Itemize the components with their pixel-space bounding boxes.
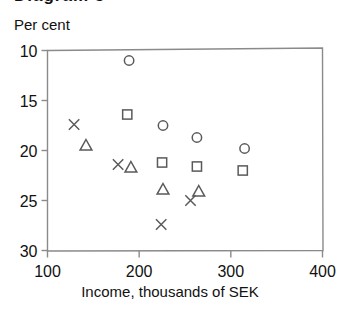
x-tick-label-300: 300 (217, 263, 244, 280)
data-point-triangle (80, 140, 92, 151)
data-point-cross (185, 195, 195, 205)
tick-label-group: 3025201510100200300400 (20, 43, 336, 280)
y-tick-label-15: 25 (20, 193, 38, 210)
tick-group (42, 51, 323, 258)
y-tick-label-25: 15 (20, 93, 38, 110)
x-axis-caption: Income, thousands of SEK (0, 283, 340, 300)
data-point-circle (240, 144, 249, 153)
data-point-circle (158, 121, 167, 130)
data-point-cross (69, 119, 79, 129)
y-tick-label-10: 30 (20, 243, 38, 260)
data-marker-group (69, 56, 249, 230)
plot-area: 3025201510100200300400 (0, 0, 340, 312)
x-tick-label-100: 100 (34, 263, 61, 280)
scatter-chart-figure: Diagram 5 Per cent 302520151010020030040… (0, 0, 340, 312)
data-point-square (123, 110, 132, 119)
data-point-triangle (193, 186, 205, 197)
x-tick-label-400: 400 (309, 263, 336, 280)
data-point-circle (124, 56, 133, 65)
data-point-triangle (125, 162, 137, 173)
y-tick-label-20: 20 (20, 143, 38, 160)
x-tick-label-200: 200 (126, 263, 153, 280)
data-point-triangle (157, 184, 169, 195)
data-point-square (238, 166, 247, 175)
data-point-circle (192, 133, 201, 142)
data-point-square (157, 158, 166, 167)
data-point-cross (156, 219, 166, 229)
y-tick-label-30: 10 (20, 43, 38, 60)
data-point-cross (113, 159, 123, 169)
data-point-square (192, 162, 201, 171)
